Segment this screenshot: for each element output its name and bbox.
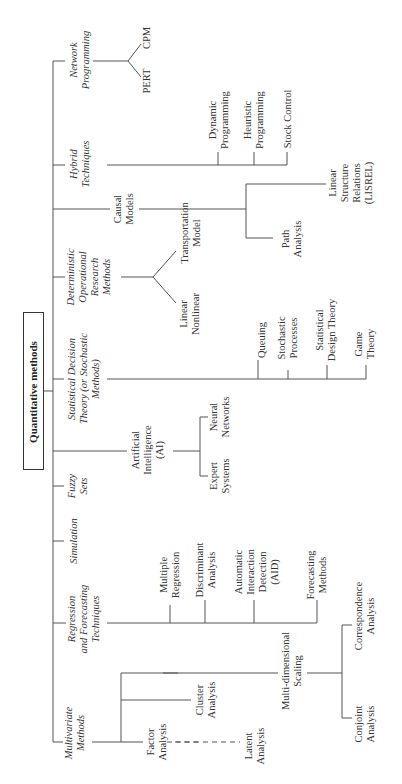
leaf-automatic-interaction-detection: Automatic Interaction Detection (AID) [233,544,281,600]
leaf-linear-nonlinear: Linear Nonlinear [178,292,202,336]
leaf-transportation-model: Transportation Model [179,200,203,266]
quantitative-methods-tree-diagram: Quantitative methods Multivariate Method… [0,0,402,784]
category-regression-forecasting: Regression and Forecasting Techniques [66,580,102,658]
root-node-box: Quantitative methods [23,312,44,470]
leaf-cpm: CPM [141,24,153,52]
leaf-stock-control: Stock Control [282,86,294,152]
leaf-lisrel: Linear Structure Relations (LISREL) [327,160,375,206]
leaf-cluster-analysis: Cluster Analysis [194,678,218,722]
category-network-programming: Network Programming [68,30,92,90]
connector-lines [0,0,402,784]
category-artificial-intelligence: Artificial Intelligence (AI) [130,424,166,476]
leaf-stochastic-processes: Stochastic Processes [276,316,300,360]
leaf-multiple-regression: Multiple Regression [158,546,182,604]
leaf-heuristic-programming: Heuristic Programming [242,88,266,152]
leaf-multidimensional-scaling: Multi-dimensional Scaling [280,630,304,712]
leaf-path-analysis: Path Analysis [280,216,304,262]
leaf-neural-networks: Neural Networks [208,394,232,440]
leaf-latent-analysis: Latent Analysis [243,724,267,768]
category-simulation: Simulation [68,511,80,571]
leaf-correspondence-analysis: Correspondence Analysis [353,578,377,654]
category-causal-models: Causal Models [112,190,136,228]
category-fuzzy-sets: Fuzzy Sets [66,469,90,503]
root-node-label: Quantitative methods [27,321,40,463]
category-statistical-decision-theory: Statistical Decision Theory (or Stochast… [66,334,102,424]
leaf-pert: PERT [141,66,153,96]
leaf-game-theory: Game Theory [353,324,377,364]
leaf-dynamic-programming: Dynamic Programming [207,88,231,152]
leaf-discriminant-analysis: Discriminant Analysis [194,540,218,600]
leaf-factor-analysis: Factor Analysis [145,722,169,762]
category-deterministic-or: Deterministic Operational Research Metho… [65,242,113,312]
leaf-queuing: Queuing [256,320,268,360]
leaf-expert-systems: Expert Systems [208,454,232,498]
leaf-statistical-design-theory: Statistical Design Theory [314,294,338,366]
category-multivariate-methods: Multivariate Methods [63,704,87,762]
leaf-forecasting-methods: Forecasting Methods [305,550,329,600]
category-hybrid-techniques: Hybrid Techniques [68,139,92,189]
leaf-conjoint-analysis: Conjoint Analysis [353,704,377,744]
